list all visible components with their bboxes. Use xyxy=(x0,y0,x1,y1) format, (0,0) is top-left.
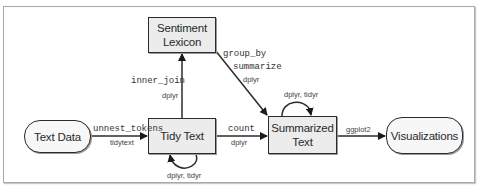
node-summarized-text-line1: Summarized xyxy=(271,121,334,135)
node-sentiment-lexicon: Sentiment Lexicon xyxy=(148,17,216,53)
label-group-by: group_by xyxy=(223,49,266,59)
node-visualizations: Visualizations xyxy=(386,117,463,154)
node-text-data: Text Data xyxy=(24,120,91,153)
edges-layer xyxy=(0,0,477,189)
node-visualizations-label: Visualizations xyxy=(391,129,458,143)
node-sentiment-lexicon-line1: Sentiment xyxy=(157,21,207,35)
node-text-data-label: Text Data xyxy=(34,130,81,144)
label-inner-join: inner_join xyxy=(131,76,185,86)
label-tidy-loop: dplyr, tidyr xyxy=(167,171,201,180)
label-ggplot2: ggplot2 xyxy=(346,125,371,134)
label-unnest-tokens: unnest_tokens xyxy=(93,124,163,134)
node-tidy-text-label: Tidy Text xyxy=(160,129,204,143)
label-inner-join-pkg: dplyr xyxy=(162,91,178,100)
label-count: count xyxy=(228,124,255,134)
label-summarize-pkg: dplyr xyxy=(243,75,259,84)
edge-summarized-self-loop xyxy=(282,102,311,116)
edge-tidy-self-loop xyxy=(170,154,197,168)
node-sentiment-lexicon-line2: Lexicon xyxy=(163,35,201,49)
node-summarized-text-line2: Text xyxy=(292,135,312,149)
node-summarized-text: Summarized Text xyxy=(268,116,337,154)
label-count-pkg: dplyr xyxy=(231,138,247,147)
label-summarize: summarize xyxy=(233,62,282,72)
label-summarized-loop: dplyr, tidyr xyxy=(284,90,318,99)
label-tidytext: tidytext xyxy=(110,138,134,147)
